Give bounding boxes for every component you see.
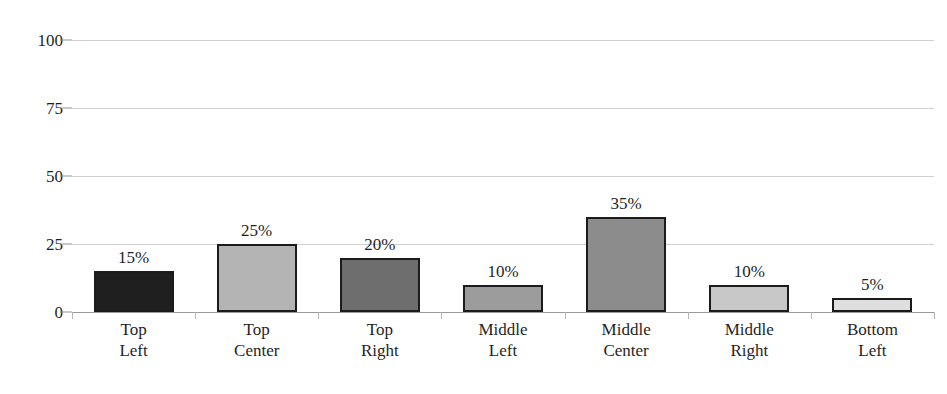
bar-group: 10% bbox=[709, 40, 789, 312]
bar bbox=[463, 285, 543, 312]
bar-value-label: 10% bbox=[487, 263, 518, 280]
x-axis-category-label: Top Left bbox=[72, 320, 195, 361]
y-axis-tick-mark bbox=[60, 312, 72, 313]
bar bbox=[586, 217, 666, 312]
x-axis-tick-mark bbox=[195, 312, 196, 319]
x-axis-tick-mark bbox=[72, 312, 73, 319]
bar-chart: 0255075100 15%25%20%10%35%10%5% Top Left… bbox=[0, 0, 947, 394]
plot-area: 15%25%20%10%35%10%5% bbox=[72, 40, 934, 312]
y-axis-tick-label: 75 bbox=[3, 100, 63, 117]
x-axis-tick-mark bbox=[441, 312, 442, 319]
x-axis-category-label: Middle Left bbox=[441, 320, 564, 361]
bar-group: 20% bbox=[340, 40, 420, 312]
bar-group: 5% bbox=[832, 40, 912, 312]
x-axis-tick-mark bbox=[688, 312, 689, 319]
x-axis-category-label: Bottom Left bbox=[811, 320, 934, 361]
bar bbox=[340, 258, 420, 312]
bar-group: 10% bbox=[463, 40, 543, 312]
x-axis-tick-mark bbox=[811, 312, 812, 319]
x-axis-category-label: Middle Right bbox=[688, 320, 811, 361]
y-axis-tick-mark bbox=[60, 108, 72, 109]
y-axis-tick-label: 25 bbox=[3, 236, 63, 253]
y-axis-tick-label: 50 bbox=[3, 168, 63, 185]
x-axis-tick-mark bbox=[565, 312, 566, 319]
y-axis-tick-mark bbox=[60, 176, 72, 177]
y-axis-tick-mark bbox=[60, 244, 72, 245]
y-axis-tick-label: 100 bbox=[3, 32, 63, 49]
bar-group: 35% bbox=[586, 40, 666, 312]
bar-value-label: 20% bbox=[364, 236, 395, 253]
bar bbox=[217, 244, 297, 312]
x-axis-category-label: Top Center bbox=[195, 320, 318, 361]
bar-value-label: 10% bbox=[734, 263, 765, 280]
bar-value-label: 5% bbox=[861, 276, 884, 293]
bar-group: 15% bbox=[94, 40, 174, 312]
y-axis-tick-label: 0 bbox=[3, 304, 63, 321]
x-axis-tick-mark bbox=[934, 312, 935, 319]
gridline bbox=[72, 312, 934, 313]
x-axis-category-label: Middle Center bbox=[565, 320, 688, 361]
bar-group: 25% bbox=[217, 40, 297, 312]
bar bbox=[832, 298, 912, 312]
x-axis-category-label: Top Right bbox=[318, 320, 441, 361]
bar-value-label: 15% bbox=[118, 249, 149, 266]
y-axis-tick-mark bbox=[60, 40, 72, 41]
bar-value-label: 25% bbox=[241, 222, 272, 239]
bar bbox=[94, 271, 174, 312]
x-axis-tick-mark bbox=[318, 312, 319, 319]
bars-layer: 15%25%20%10%35%10%5% bbox=[72, 40, 934, 312]
bar-value-label: 35% bbox=[611, 195, 642, 212]
bar bbox=[709, 285, 789, 312]
